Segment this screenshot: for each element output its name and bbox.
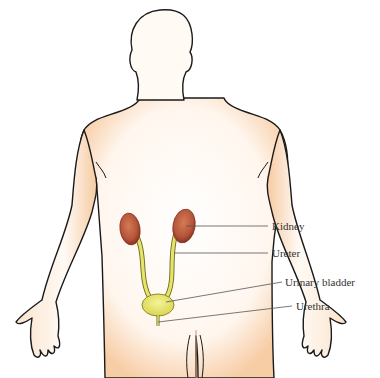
label-urinary-bladder: Urinary bladder [285,276,355,288]
label-kidney: Kidney [272,220,304,232]
label-ureter: Ureter [272,247,300,259]
left-arm [16,130,97,357]
label-urethra: Urethra [296,300,330,312]
urinary-system-diagram: Kidney Ureter Urinary bladder Urethra [0,0,380,378]
body-illustration [0,0,380,378]
body-outline [80,10,287,378]
urinary-bladder [142,294,174,316]
right-arm [267,130,346,357]
